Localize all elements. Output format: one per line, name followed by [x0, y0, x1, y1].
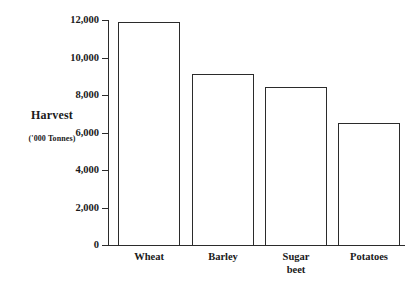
y-axis-tick: [102, 133, 109, 134]
y-axis-tick-label: 8,000: [7, 90, 99, 100]
y-axis-tick-label: 0: [7, 240, 99, 250]
plot-area: 02,0004,0006,0008,00010,00012,000 WheatB…: [100, 14, 405, 259]
y-axis-tick: [102, 58, 109, 59]
y-axis-tick: [102, 245, 109, 246]
y-axis-tick: [102, 170, 109, 171]
bar-chart-figure: Harvest ('000 Tonnes) 02,0004,0006,0008,…: [0, 0, 417, 287]
x-axis-category-label: Sugar beet: [255, 250, 337, 276]
bar: [192, 74, 254, 246]
y-axis-tick-label: 12,000: [7, 15, 99, 25]
y-axis-title: Harvest: [8, 108, 96, 122]
y-axis-tick-label: 4,000: [7, 165, 99, 175]
y-axis-tick-label: 2,000: [7, 203, 99, 213]
y-axis-tick-label: 6,000: [7, 128, 99, 138]
y-axis-label-block: Harvest ('000 Tonnes): [8, 108, 96, 144]
y-axis-tick-label: 10,000: [7, 53, 99, 63]
y-axis-tick: [102, 95, 109, 96]
x-axis-category-label: Barley: [182, 250, 264, 263]
x-axis-category-label: Wheat: [108, 250, 190, 263]
y-axis-tick: [102, 208, 109, 209]
x-axis-category-label: Potatoes: [328, 250, 410, 263]
bar: [338, 123, 400, 246]
y-axis-tick: [102, 20, 109, 21]
bar: [118, 22, 180, 246]
bar: [265, 87, 327, 246]
